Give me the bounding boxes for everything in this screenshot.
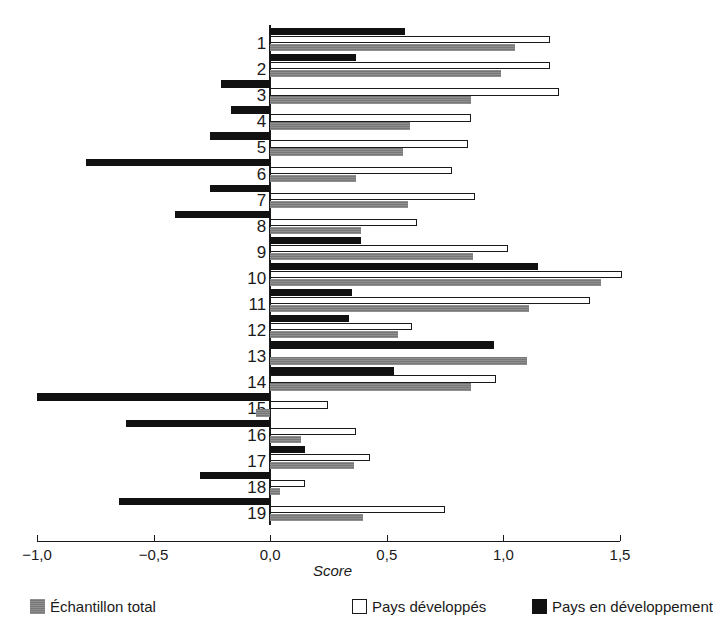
bar-dev-13 <box>270 341 494 348</box>
bar-total-5 <box>270 148 403 155</box>
legend-swatch-icon-developed <box>352 599 367 614</box>
bar-total-4 <box>270 122 410 129</box>
chart-row <box>0 446 665 472</box>
bar-total-3 <box>270 96 471 103</box>
chart-row <box>0 263 665 289</box>
bar-developed-8 <box>270 219 417 226</box>
bar-developed-17 <box>270 454 370 461</box>
chart-row <box>0 420 665 446</box>
bar-dev-14 <box>270 367 394 374</box>
bar-developed-9 <box>270 245 508 252</box>
bar-developed-18 <box>270 480 305 487</box>
legend-label: Échantillon total <box>50 598 156 615</box>
chart-row <box>0 28 665 54</box>
bar-total-16 <box>270 436 300 443</box>
bar-dev-8 <box>175 211 271 218</box>
bar-dev-18 <box>200 472 270 479</box>
bar-total-19 <box>270 514 363 521</box>
x-tick-label: −1,0 <box>22 546 52 563</box>
bar-total-10 <box>270 279 601 286</box>
chart-row <box>0 159 665 185</box>
x-tick-label: 0,0 <box>260 546 281 563</box>
chart-legend: Échantillon totalPays développésPays en … <box>0 598 665 628</box>
bar-developed-16 <box>270 428 356 435</box>
legend-item-total[interactable]: Échantillon total <box>30 598 156 615</box>
bar-developed-4 <box>270 114 471 121</box>
bar-dev-5 <box>210 132 271 139</box>
bar-total-18 <box>270 488 279 495</box>
bar-total-6 <box>270 175 356 182</box>
chart-row <box>0 498 665 524</box>
bar-dev-6 <box>86 159 270 166</box>
bar-total-15 <box>256 409 270 416</box>
chart-row <box>0 80 665 106</box>
x-axis-title: Score <box>0 562 665 579</box>
bar-total-14 <box>270 383 471 390</box>
bar-developed-3 <box>270 88 559 95</box>
bar-total-17 <box>270 462 354 469</box>
chart-row <box>0 211 665 237</box>
chart-row <box>0 341 665 367</box>
legend-label: Pays développés <box>372 598 486 615</box>
chart-row <box>0 185 665 211</box>
x-tick <box>37 535 38 541</box>
bar-total-8 <box>270 227 361 234</box>
bar-developed-11 <box>270 297 589 304</box>
chart-row <box>0 315 665 341</box>
bar-dev-9 <box>270 237 361 244</box>
chart-row <box>0 472 665 498</box>
chart-row <box>0 132 665 158</box>
bar-developed-2 <box>270 62 550 69</box>
x-tick <box>154 535 155 541</box>
chart-row <box>0 106 665 132</box>
chart-row <box>0 393 665 419</box>
bar-dev-4 <box>231 106 271 113</box>
bar-total-1 <box>270 44 515 51</box>
x-tick-label: 0,5 <box>376 546 397 563</box>
chart-row <box>0 367 665 393</box>
x-tick <box>620 535 621 541</box>
bar-dev-12 <box>270 315 349 322</box>
chart-row <box>0 54 665 80</box>
x-tick <box>270 535 271 541</box>
bar-dev-1 <box>270 28 405 35</box>
bar-dev-2 <box>270 54 356 61</box>
bar-developed-7 <box>270 193 475 200</box>
bar-developed-10 <box>270 271 622 278</box>
legend-item-dev[interactable]: Pays en développement <box>532 598 713 615</box>
bar-dev-16 <box>126 420 271 427</box>
x-axis-line <box>37 541 620 542</box>
bar-dev-17 <box>270 446 305 453</box>
legend-item-developed[interactable]: Pays développés <box>352 598 486 615</box>
chart-row <box>0 289 665 315</box>
x-tick-label: 1,5 <box>610 546 631 563</box>
bar-total-9 <box>270 253 473 260</box>
legend-label: Pays en développement <box>552 598 713 615</box>
bar-total-11 <box>270 305 529 312</box>
bar-dev-10 <box>270 263 538 270</box>
bar-dev-19 <box>119 498 271 505</box>
bar-developed-12 <box>270 323 412 330</box>
bar-dev-3 <box>221 80 270 87</box>
bar-developed-14 <box>270 375 496 382</box>
x-tick-label: 1,0 <box>493 546 514 563</box>
bar-developed-6 <box>270 167 452 174</box>
x-tick <box>387 535 388 541</box>
plot-area: 12345678910111213141516171819 <box>0 0 665 540</box>
bar-developed-15 <box>270 401 328 408</box>
chart-row <box>0 237 665 263</box>
bar-dev-15 <box>37 393 270 400</box>
bar-total-13 <box>270 357 527 364</box>
legend-swatch-icon-total <box>30 599 45 614</box>
legend-swatch-icon-dev <box>532 599 547 614</box>
bar-developed-19 <box>270 506 445 513</box>
bar-dev-7 <box>210 185 271 192</box>
bar-total-12 <box>270 331 398 338</box>
bar-developed-5 <box>270 140 468 147</box>
bar-dev-11 <box>270 289 352 296</box>
x-tick <box>503 535 504 541</box>
bar-total-2 <box>270 70 501 77</box>
x-tick-label: −0,5 <box>139 546 169 563</box>
bar-developed-1 <box>270 36 550 43</box>
